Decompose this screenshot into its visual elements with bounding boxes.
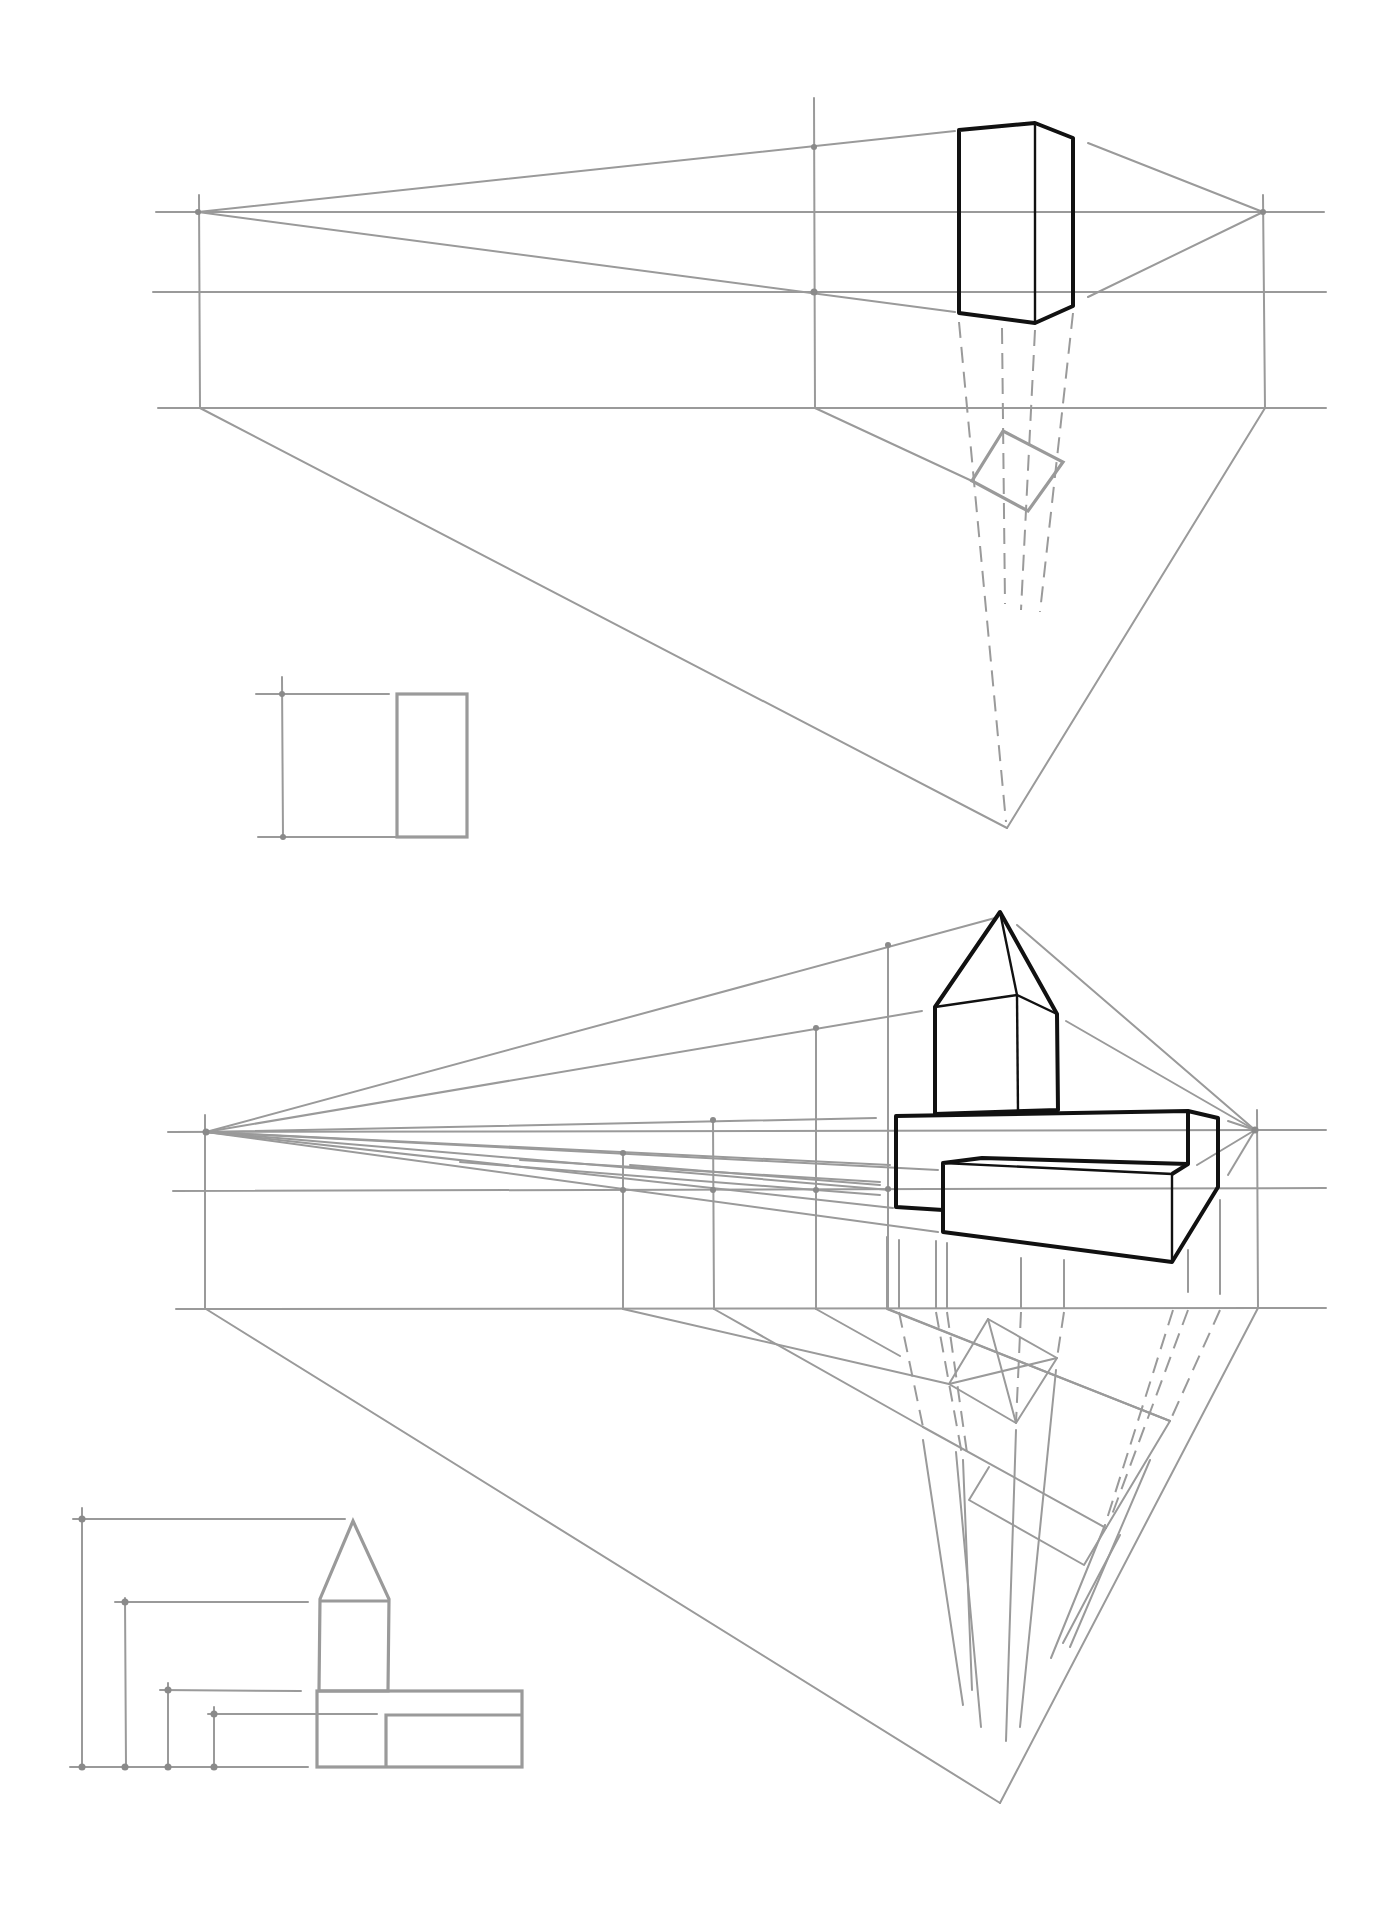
vanishing-point-right bbox=[1260, 209, 1266, 215]
perspective-drawing bbox=[0, 0, 1378, 1907]
elevation-2 bbox=[70, 1508, 522, 1771]
plan-square-1 bbox=[972, 431, 1063, 511]
figure-1-construction bbox=[153, 98, 1326, 828]
vanishing-point-left bbox=[203, 1129, 210, 1136]
elevation-slab bbox=[317, 1691, 522, 1767]
figure-2-construction bbox=[168, 918, 1326, 1803]
elevation-rect bbox=[397, 694, 467, 837]
vanishing-point-right bbox=[1252, 1127, 1259, 1134]
vanishing-point-left bbox=[195, 209, 201, 215]
measure-point bbox=[811, 289, 818, 296]
elevation-1 bbox=[256, 677, 467, 840]
plan-2 bbox=[887, 1309, 1170, 1565]
elevation-tower bbox=[319, 1521, 389, 1691]
measure-point bbox=[811, 144, 817, 150]
tower-object bbox=[896, 912, 1218, 1262]
